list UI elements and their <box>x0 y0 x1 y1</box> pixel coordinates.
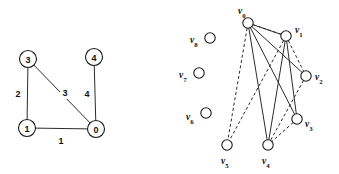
edge-weight-label-1-0: 1 <box>58 136 63 146</box>
node-label-v6: v6 <box>186 112 194 125</box>
right-graph-node-v8[interactable]: v8 <box>190 33 215 48</box>
graph-edge-v2-v4 <box>271 81 304 141</box>
node-circle-v4[interactable] <box>263 140 273 150</box>
node-circle-v8[interactable] <box>205 33 215 43</box>
right-graph-nodes: v0v1v2v3v4v5v6v7v8 <box>179 6 323 169</box>
right-graph-node-v6[interactable]: v6 <box>186 108 211 125</box>
right-graph-node-v2[interactable]: v2 <box>301 71 323 85</box>
right-graph-node-v1[interactable]: v1 <box>281 25 303 41</box>
node-label-v5: v5 <box>221 156 229 169</box>
node-label-0: 0 <box>93 125 98 135</box>
right-graph-node-v4[interactable]: v4 <box>262 140 273 169</box>
right-graph-node-v7[interactable]: v7 <box>179 68 204 83</box>
node-circle-v7[interactable] <box>194 68 204 78</box>
graph-edge-v0-v4 <box>249 28 267 140</box>
edge-weight-label-3-0: 3 <box>62 88 67 98</box>
node-label-v3: v3 <box>305 119 313 132</box>
graph-edge-v0-v1 <box>253 25 281 35</box>
left-graph-node-4[interactable]: 4 <box>86 49 103 66</box>
node-circle-v0[interactable] <box>243 18 253 28</box>
graph-edge-v1-v3 <box>287 41 297 114</box>
node-label-v7: v7 <box>179 70 187 83</box>
node-label-v2: v2 <box>315 72 323 85</box>
graph-figure: 23143410v0v1v2v3v4v5v6v7v8 <box>0 0 339 174</box>
left-graph-node-3[interactable]: 3 <box>20 51 37 68</box>
right-graph-edges <box>228 25 304 142</box>
node-circle-v6[interactable] <box>201 108 211 118</box>
graph-edge-v3-v4 <box>272 122 293 141</box>
node-label-4: 4 <box>91 53 96 63</box>
node-label-v0: v0 <box>238 6 246 19</box>
node-label-v8: v8 <box>190 35 198 48</box>
node-label-1: 1 <box>24 124 29 134</box>
graph-edge-1-0 <box>35 128 87 129</box>
graph-edge-3-1 <box>27 67 28 119</box>
edge-weight-label-4-0: 4 <box>84 89 89 99</box>
graph-edge-v1-v5 <box>229 41 283 141</box>
node-label-3: 3 <box>25 55 30 65</box>
edge-weight-label-3-1: 2 <box>15 89 20 99</box>
left-graph-node-1[interactable]: 1 <box>19 120 36 137</box>
node-circle-v5[interactable] <box>222 140 232 150</box>
node-label-v4: v4 <box>262 156 270 169</box>
right-graph-node-v0[interactable]: v0 <box>238 6 253 28</box>
graph-edge-4-0 <box>94 65 96 120</box>
graph-canvas: 23143410v0v1v2v3v4v5v6v7v8 <box>0 0 339 174</box>
node-label-v1: v1 <box>295 25 303 38</box>
right-graph-node-v3[interactable]: v3 <box>292 114 313 132</box>
node-circle-v2[interactable] <box>301 71 311 81</box>
node-circle-v3[interactable] <box>292 114 302 124</box>
graph-edge-v0-v5 <box>228 28 247 140</box>
node-circle-v1[interactable] <box>281 31 291 41</box>
right-graph-node-v5[interactable]: v5 <box>221 140 232 169</box>
left-graph-node-0[interactable]: 0 <box>88 121 105 138</box>
